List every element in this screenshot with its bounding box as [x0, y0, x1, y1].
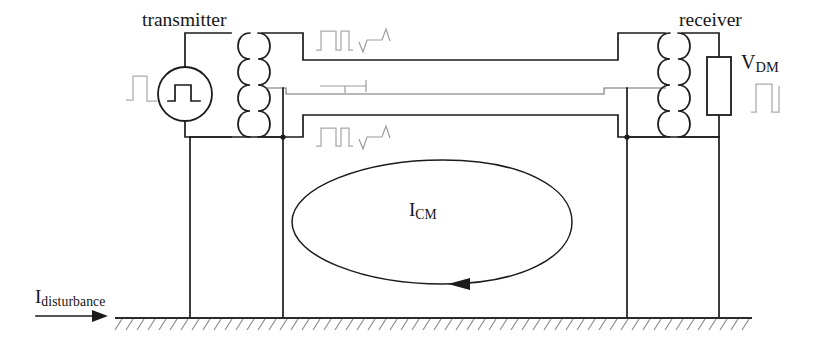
icm-subscript: CM [415, 207, 436, 222]
source-wiring [158, 33, 231, 137]
idisturbance-label: Idisturbance [35, 287, 105, 306]
receiver-junction-dot [624, 134, 629, 139]
receiver-left-windings [658, 33, 670, 137]
source-input-square-wave [126, 76, 157, 101]
transmitter-output-wires [190, 33, 666, 318]
receiver-label: receiver [679, 10, 742, 30]
common-mode-current-loop [292, 160, 572, 290]
top-line-square-wave-path [316, 31, 353, 50]
top-transmission-line [262, 33, 665, 60]
bottom-transmission-line [262, 115, 665, 137]
source-top-wire [185, 33, 231, 67]
vdm-output-wave-path [751, 84, 779, 112]
ground-hatching [115, 319, 749, 330]
vdm-subscript: DM [755, 59, 778, 75]
top-line-noise-spike [359, 29, 390, 52]
middle-center-tap-line [266, 88, 666, 94]
idisturbance-subscript: disturbance [41, 294, 105, 309]
transmitter-label: transmitter [142, 10, 226, 30]
bottom-line-square-wave-path [316, 128, 353, 146]
cm-loop-ellipse [292, 160, 572, 284]
source-bottom-wire [185, 121, 231, 137]
receiver-transformer [658, 33, 690, 137]
load-resistor-body [707, 57, 731, 115]
cm-loop-arrowhead [448, 278, 470, 290]
ground-plane [115, 318, 752, 330]
source-circle [158, 67, 212, 121]
vdm-output-square-wave [751, 84, 779, 112]
diagram-canvas [0, 0, 817, 346]
circuit-diagram-figure: transmitter receiver VDM ICM Idisturbanc… [0, 0, 817, 346]
vdm-label: VDM [741, 52, 779, 72]
receiver-load-wiring [624, 33, 731, 318]
transformer-right-windings [258, 33, 270, 137]
bottom-line-square-wave [316, 128, 353, 146]
vdm-main-text: V [741, 51, 755, 73]
middle-line-glitch [320, 80, 366, 93]
hatch-strokes [115, 319, 749, 330]
disturbance-arrowhead [92, 310, 108, 322]
load-bottom-wire [682, 115, 719, 137]
transmitter-transformer [238, 33, 270, 137]
transmitter-junction-dot [280, 134, 285, 139]
bottom-line-noise-spike [359, 126, 390, 149]
transformer-left-windings [238, 33, 250, 137]
top-line-noise-spike-path [359, 29, 390, 52]
disturbance-current-arrow [36, 310, 108, 322]
middle-line-glitch-path [320, 80, 366, 93]
bottom-line-noise-spike-path [359, 126, 390, 149]
icm-label: ICM [409, 200, 437, 219]
top-line-square-wave [316, 31, 353, 50]
source-input-wave-path [126, 76, 157, 101]
receiver-right-windings [678, 33, 690, 137]
